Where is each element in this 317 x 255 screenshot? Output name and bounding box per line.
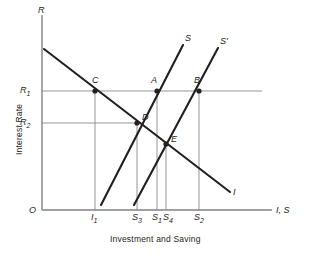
- x-tick-label-s4: S4: [163, 213, 173, 224]
- curve-label-S: S: [185, 34, 191, 43]
- curve-saving-S-prime: [134, 48, 218, 205]
- x-axis-symbol: I, S: [276, 206, 290, 215]
- point-label-A: A: [151, 76, 157, 85]
- point-label-D: D: [142, 113, 149, 122]
- point-marker-c: [92, 88, 97, 93]
- y-tick-r2-sub: 2: [27, 122, 31, 129]
- curve-label-I: I: [233, 188, 236, 197]
- point-label-E: E: [171, 135, 177, 144]
- x-tick-s3-sub: 3: [138, 217, 142, 224]
- investment-saving-diagram: R I, S O S S' I C A B D E R1 R2 I1 S3 S1…: [0, 0, 317, 255]
- x-tick-label-s2: S2: [194, 213, 204, 224]
- x-tick-i1-sub: 1: [94, 217, 98, 224]
- point-label-C: C: [92, 76, 99, 85]
- point-marker-a: [154, 88, 159, 93]
- x-tick-s4-sub: 4: [169, 217, 173, 224]
- point-marker-d: [134, 120, 139, 125]
- origin-label: O: [29, 206, 36, 215]
- y-tick-r1-sub: 1: [27, 90, 31, 97]
- x-axis-title: Investment and Saving: [110, 234, 201, 244]
- point-marker-e: [163, 141, 168, 146]
- curve-saving-S: [101, 45, 183, 205]
- y-tick-label-r1: R1: [20, 86, 30, 97]
- x-tick-s2-sub: 2: [200, 217, 204, 224]
- y-axis-symbol: R: [38, 6, 45, 15]
- x-tick-label-i1: I1: [91, 213, 97, 224]
- curve-label-S-prime: S': [220, 37, 228, 46]
- y-axis-title: Interest Rate: [14, 104, 24, 155]
- point-label-B: B: [194, 76, 200, 85]
- x-tick-label-s3: S3: [132, 213, 142, 224]
- x-tick-label-s1: S1: [152, 213, 162, 224]
- point-marker-b: [196, 88, 201, 93]
- x-tick-s1-sub: 1: [158, 217, 162, 224]
